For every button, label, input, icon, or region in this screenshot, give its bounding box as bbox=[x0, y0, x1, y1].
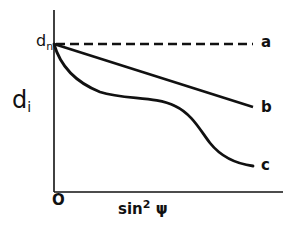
x-axis-label: sin2 ψ bbox=[118, 199, 168, 217]
curve-c bbox=[54, 44, 253, 166]
curve-a-label: a bbox=[261, 35, 271, 50]
y-reference-label: dn bbox=[36, 33, 53, 52]
curve-b-label: b bbox=[261, 100, 272, 115]
y-axis-label: di bbox=[12, 88, 31, 114]
curve-b bbox=[54, 44, 253, 107]
curve-c-label: c bbox=[261, 158, 270, 173]
diagram: di dn O sin2 ψ a b c bbox=[0, 0, 295, 234]
origin-label: O bbox=[52, 193, 65, 208]
